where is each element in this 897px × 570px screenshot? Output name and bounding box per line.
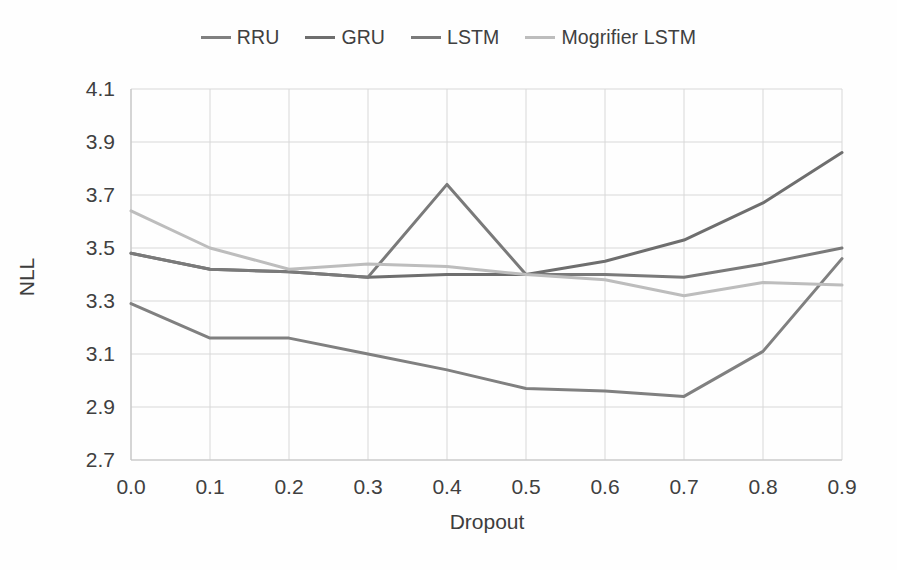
y-tick-label: 4.1 xyxy=(86,77,115,100)
x-tick-label: 0.6 xyxy=(590,475,619,498)
y-axis-title: NLL xyxy=(15,258,38,297)
series-line-mogrifier-lstm xyxy=(131,211,842,296)
x-tick-label: 0.1 xyxy=(195,475,224,498)
x-axis-tick-labels: 0.00.10.20.30.40.50.60.70.80.9 xyxy=(116,475,856,498)
x-axis-title: Dropout xyxy=(450,510,525,533)
y-tick-label: 3.9 xyxy=(86,130,115,153)
x-tick-label: 0.8 xyxy=(748,475,777,498)
chart-figure: RRU GRU LSTM Mogrifier LSTM 2.72.93.13.3… xyxy=(0,0,897,570)
series-lines xyxy=(131,153,842,397)
y-tick-label: 2.9 xyxy=(86,395,115,418)
series-line-rru xyxy=(131,259,842,397)
x-tick-label: 0.9 xyxy=(827,475,856,498)
plot-area-wrapper: 2.72.93.13.33.53.73.94.1 0.00.10.20.30.4… xyxy=(0,0,897,570)
y-tick-label: 3.3 xyxy=(86,289,115,312)
y-tick-label: 3.1 xyxy=(86,342,115,365)
series-line-gru xyxy=(131,153,842,278)
x-tick-label: 0.2 xyxy=(274,475,303,498)
x-tick-label: 0.5 xyxy=(511,475,540,498)
y-tick-label: 3.7 xyxy=(86,183,115,206)
y-tick-label: 2.7 xyxy=(86,448,115,471)
line-chart-svg: 2.72.93.13.33.53.73.94.1 0.00.10.20.30.4… xyxy=(0,0,897,570)
x-tick-label: 0.3 xyxy=(353,475,382,498)
x-tick-label: 0.4 xyxy=(432,475,462,498)
series-line-lstm xyxy=(131,184,842,277)
y-axis-tick-labels: 2.72.93.13.33.53.73.94.1 xyxy=(86,77,115,471)
x-tick-label: 0.0 xyxy=(116,475,145,498)
x-tick-label: 0.7 xyxy=(669,475,698,498)
y-tick-label: 3.5 xyxy=(86,236,115,259)
